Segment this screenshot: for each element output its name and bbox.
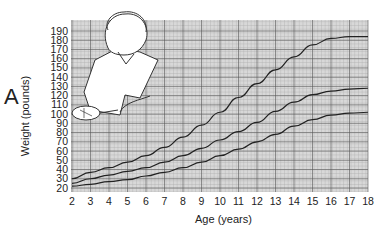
svg-text:4: 4 — [106, 195, 112, 207]
svg-text:10: 10 — [214, 195, 226, 207]
svg-text:18: 18 — [362, 195, 374, 207]
svg-text:12: 12 — [251, 195, 263, 207]
svg-text:17: 17 — [344, 195, 356, 207]
svg-text:14: 14 — [288, 195, 300, 207]
svg-text:190: 190 — [50, 25, 68, 37]
svg-text:6: 6 — [143, 195, 149, 207]
svg-text:7: 7 — [162, 195, 168, 207]
svg-text:5: 5 — [125, 195, 131, 207]
svg-text:15: 15 — [307, 195, 319, 207]
svg-text:3: 3 — [88, 195, 94, 207]
svg-text:8: 8 — [180, 195, 186, 207]
growth-chart: 2030405060708090100110120130140150160170… — [0, 0, 392, 234]
x-tick-labels: 23456789101112131415161718 — [69, 195, 374, 207]
svg-text:11: 11 — [233, 195, 244, 207]
panel-label: A — [4, 84, 19, 110]
y-tick-labels: 2030405060708090100110120130140150160170… — [50, 25, 68, 194]
y-axis-label: Weight (pounds) — [19, 61, 31, 171]
svg-text:13: 13 — [270, 195, 282, 207]
svg-text:9: 9 — [199, 195, 205, 207]
x-axis-label: Age (years) — [195, 213, 252, 225]
svg-text:16: 16 — [325, 195, 337, 207]
svg-text:2: 2 — [69, 195, 75, 207]
